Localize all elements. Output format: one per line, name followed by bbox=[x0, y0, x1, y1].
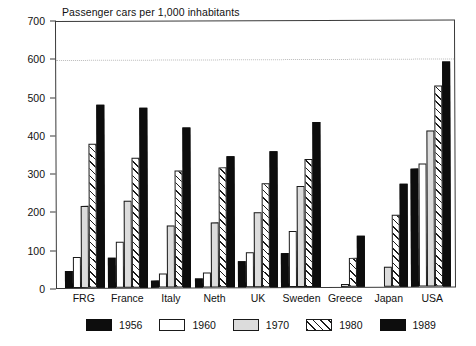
x-label-greece: Greece bbox=[323, 292, 367, 310]
bar-frg-1960 bbox=[73, 257, 81, 288]
bar-usa-1989 bbox=[442, 62, 451, 287]
bar-japan-1970 bbox=[384, 267, 392, 287]
x-axis-labels: FRGFranceItalyNethUKSwedenGreeceJapanUSA bbox=[56, 292, 456, 310]
bar-neth-1970 bbox=[210, 222, 218, 287]
bar-chart-figure: Passenger cars per 1,000 inhabitants 700… bbox=[0, 0, 476, 346]
x-label-usa: USA bbox=[411, 292, 455, 310]
bar-neth-1960 bbox=[203, 272, 211, 287]
bar-group-japan bbox=[365, 21, 409, 287]
legend-label-1970: 1970 bbox=[266, 319, 289, 331]
x-label-neth: Neth bbox=[193, 292, 237, 310]
bar-group-sweden bbox=[279, 21, 323, 287]
y-tick-label: 500 bbox=[27, 92, 45, 103]
solid-black-swatch bbox=[380, 319, 406, 331]
bar-uk-1989 bbox=[269, 151, 278, 287]
x-label-frg: FRG bbox=[62, 292, 106, 310]
bar-group-italy bbox=[149, 21, 193, 287]
white-outline-swatch bbox=[159, 319, 185, 331]
bar-sweden-1989 bbox=[313, 122, 322, 287]
bar-france-1989 bbox=[139, 108, 148, 288]
y-tick-label: 600 bbox=[27, 54, 45, 65]
bar-japan-1980 bbox=[392, 215, 400, 287]
bar-italy-1960 bbox=[159, 274, 167, 288]
y-tick-label: 300 bbox=[27, 169, 45, 180]
x-label-italy: Italy bbox=[149, 292, 193, 310]
chart-legend: 19561960197019801989 bbox=[56, 313, 466, 337]
y-tick-label: 100 bbox=[27, 245, 45, 256]
bar-uk-1956 bbox=[238, 261, 246, 287]
plot-area bbox=[55, 19, 456, 289]
bar-group-greece bbox=[322, 21, 366, 287]
bar-italy-1989 bbox=[183, 128, 192, 288]
solid-black-swatch bbox=[86, 319, 112, 331]
bar-france-1956 bbox=[108, 258, 116, 288]
bar-greece-1980 bbox=[349, 258, 357, 287]
legend-item-1960: 1960 bbox=[159, 319, 215, 331]
bar-group-usa bbox=[409, 20, 453, 286]
bar-italy-1956 bbox=[151, 281, 159, 288]
x-label-uk: UK bbox=[236, 292, 280, 310]
legend-item-1989: 1989 bbox=[380, 319, 436, 331]
bar-frg-1956 bbox=[65, 271, 73, 288]
y-axis: 7006005004003002001000 bbox=[0, 21, 56, 289]
chart-title: Passenger cars per 1,000 inhabitants bbox=[62, 6, 240, 18]
legend-label-1956: 1956 bbox=[119, 319, 142, 331]
bar-frg-1989 bbox=[96, 105, 105, 288]
x-label-france: France bbox=[106, 292, 150, 310]
bar-sweden-1960 bbox=[289, 231, 297, 287]
bar-group-frg bbox=[62, 22, 106, 288]
bar-france-1960 bbox=[116, 242, 124, 288]
legend-item-1956: 1956 bbox=[86, 319, 142, 331]
bar-italy-1970 bbox=[167, 226, 175, 288]
bar-group-uk bbox=[235, 21, 279, 287]
bar-neth-1989 bbox=[226, 157, 235, 288]
bar-group-france bbox=[105, 22, 149, 288]
y-tick-label: 0 bbox=[39, 284, 45, 295]
x-label-japan: Japan bbox=[367, 292, 411, 310]
legend-label-1980: 1980 bbox=[339, 319, 362, 331]
bar-japan-1989 bbox=[400, 184, 408, 287]
bar-greece-1989 bbox=[356, 236, 364, 287]
legend-item-1970: 1970 bbox=[233, 319, 289, 331]
y-tick-label: 400 bbox=[27, 131, 45, 142]
legend-label-1960: 1960 bbox=[192, 319, 215, 331]
x-label-sweden: Sweden bbox=[280, 292, 324, 310]
y-tick-label: 200 bbox=[27, 207, 45, 218]
diagonal-hatch-swatch bbox=[306, 319, 332, 331]
bar-group-neth bbox=[192, 21, 236, 287]
bar-greece-1970 bbox=[341, 283, 349, 286]
bar-neth-1956 bbox=[195, 279, 203, 288]
legend-item-1980: 1980 bbox=[306, 319, 362, 331]
bar-uk-1960 bbox=[246, 252, 254, 287]
legend-label-1989: 1989 bbox=[413, 319, 436, 331]
y-tick-label: 700 bbox=[27, 16, 45, 27]
light-gray-swatch bbox=[233, 319, 259, 331]
bar-sweden-1956 bbox=[281, 253, 289, 287]
